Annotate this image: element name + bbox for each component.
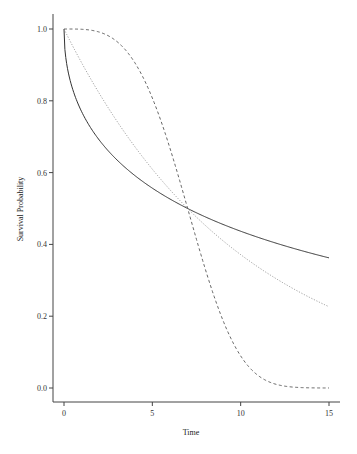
series-line-dashed — [64, 29, 329, 388]
x-tick-label: 5 — [150, 409, 154, 418]
x-tick-label: 15 — [325, 409, 333, 418]
y-tick-label: 0.2 — [37, 312, 47, 321]
y-tick-label: 0.6 — [37, 169, 47, 178]
series-line-dotted — [64, 29, 329, 307]
y-axis-label: Survival Probability — [16, 177, 25, 242]
series-line-solid — [64, 29, 329, 258]
y-tick-label: 0.8 — [37, 97, 47, 106]
survival-chart: 0.00.20.40.60.81.0051015 Time Survival P… — [0, 0, 357, 454]
y-tick-label: 1.0 — [37, 25, 47, 34]
series-lines — [64, 29, 329, 388]
axes: 0.00.20.40.60.81.0051015 — [37, 14, 340, 418]
x-tick-label: 0 — [62, 409, 66, 418]
y-tick-label: 0.4 — [37, 240, 47, 249]
y-tick-label: 0.0 — [37, 384, 47, 393]
x-axis-label: Time — [183, 428, 200, 437]
x-tick-label: 10 — [237, 409, 245, 418]
